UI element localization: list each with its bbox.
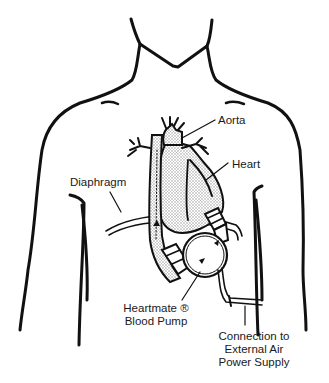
diagram-canvas: Aorta Heart Diaphragm Heartmate ® Blood … [0,0,329,383]
label-blood-pump-line1: Heartmate ® [116,302,196,315]
label-power-supply-line2: External Air [214,343,294,356]
label-blood-pump-line2: Blood Pump [116,315,196,328]
label-power-supply-line3: Power Supply [214,356,294,369]
label-heart: Heart [232,158,260,171]
label-aorta: Aorta [218,114,246,127]
label-power-supply-line1: Connection to [214,330,294,343]
label-diaphragm: Diaphragm [70,176,126,189]
label-blood-pump: Heartmate ® Blood Pump [116,302,196,328]
label-power-supply: Connection to External Air Power Supply [214,330,294,369]
blood-pump [183,233,227,277]
